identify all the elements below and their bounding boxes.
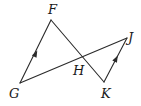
parallel-arrow-kj bbox=[112, 54, 120, 63]
label-j: J bbox=[125, 30, 134, 45]
label-h: H bbox=[72, 63, 85, 78]
segment-gf bbox=[20, 20, 51, 83]
label-k: K bbox=[100, 86, 112, 101]
label-f: F bbox=[47, 2, 58, 17]
label-g: G bbox=[9, 86, 19, 101]
geometry-diagram: F G H J K bbox=[0, 0, 141, 106]
